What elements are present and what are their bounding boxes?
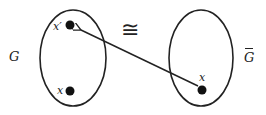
isomorphic-symbol: ≅ [121, 17, 139, 42]
left-set-label: G [9, 49, 19, 64]
point-x-prime-label: x′ [53, 20, 62, 33]
point-x-left-label: x [57, 84, 64, 97]
point-x-right-label: x [199, 71, 206, 84]
diagram-canvas: G x′ x ≅ G x [0, 0, 266, 115]
point-x-prime [66, 21, 75, 30]
mapping-arrow [81, 30, 198, 86]
right-set-label: G [244, 50, 254, 65]
point-x-right [198, 86, 207, 95]
point-x-left [66, 87, 75, 96]
